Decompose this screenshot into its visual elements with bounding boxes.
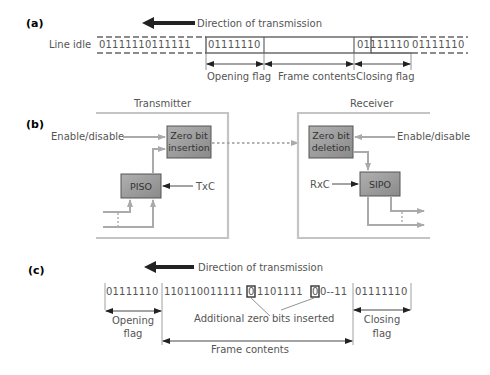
data-bits-3: 0--11 <box>320 286 347 297</box>
part-c-label: (c) <box>28 264 45 277</box>
idle-bits-right: 01111110 <box>412 39 465 50</box>
closing-flag-bits-a: 01111110 <box>357 39 410 50</box>
opening-flag-bits-c: 01111110 <box>106 286 159 297</box>
part-b-label: (b) <box>26 118 44 131</box>
hdlc-bit-stuffing-diagram: (a) Direction of transmission Line idle … <box>0 0 490 375</box>
direction-label-a: Direction of transmission <box>197 18 322 29</box>
opening-flag-bits-a: 01111110 <box>208 39 261 50</box>
piso-label: PISO <box>130 181 152 192</box>
part-b: (b) Transmitter Enable/disable Zero bit … <box>26 98 470 238</box>
opening-flag-line2-c: flag <box>124 328 143 339</box>
transmitter-title: Transmitter <box>133 98 192 109</box>
receiver-title: Receiver <box>350 98 394 109</box>
frame-contents-label-a: Frame contents <box>278 71 356 82</box>
direction-arrow-a <box>142 17 195 29</box>
opening-flag-line1-c: Opening <box>112 315 154 326</box>
zero-insert-line1: Zero bit <box>170 130 208 141</box>
inserted-bit-1: 0 <box>248 286 255 297</box>
data-bits-2: 1101111 <box>257 286 303 297</box>
rx-enable-label: Enable/disable <box>397 131 470 142</box>
opening-flag-label-a: Opening flag <box>207 71 271 82</box>
txc-label: TxC <box>195 181 215 192</box>
part-c: (c) Direction of transmission 01111110 1… <box>28 261 411 355</box>
closing-flag-bits-c: 01111110 <box>355 286 408 297</box>
sipo-label: SIPO <box>369 179 391 190</box>
additional-zero-bits-label: Additional zero bits inserted <box>194 313 334 324</box>
idle-bits-left: 01111110111111 <box>99 39 191 50</box>
zero-delete-line2: deletion <box>312 142 351 153</box>
direction-arrow-c <box>144 261 194 273</box>
inserted-bit-2: 0 <box>312 286 319 297</box>
zero-delete-line1: Zero bit <box>312 130 350 141</box>
data-bits-1: 110110011111 <box>164 286 243 297</box>
closing-flag-line1-c: Closing <box>364 314 401 325</box>
frame-contents-label-c: Frame contents <box>211 344 289 355</box>
rxc-label: RxC <box>310 179 330 190</box>
tx-enable-label: Enable/disable <box>51 131 124 142</box>
part-a: (a) Direction of transmission Line idle … <box>26 17 468 82</box>
zero-insert-line2: insertion <box>168 142 210 153</box>
closing-flag-line2-c: flag <box>373 328 392 339</box>
closing-flag-label-a: Closing flag <box>356 71 415 82</box>
part-a-label: (a) <box>26 17 43 30</box>
line-idle-label: Line idle <box>49 39 91 50</box>
direction-label-c: Direction of transmission <box>198 262 323 273</box>
